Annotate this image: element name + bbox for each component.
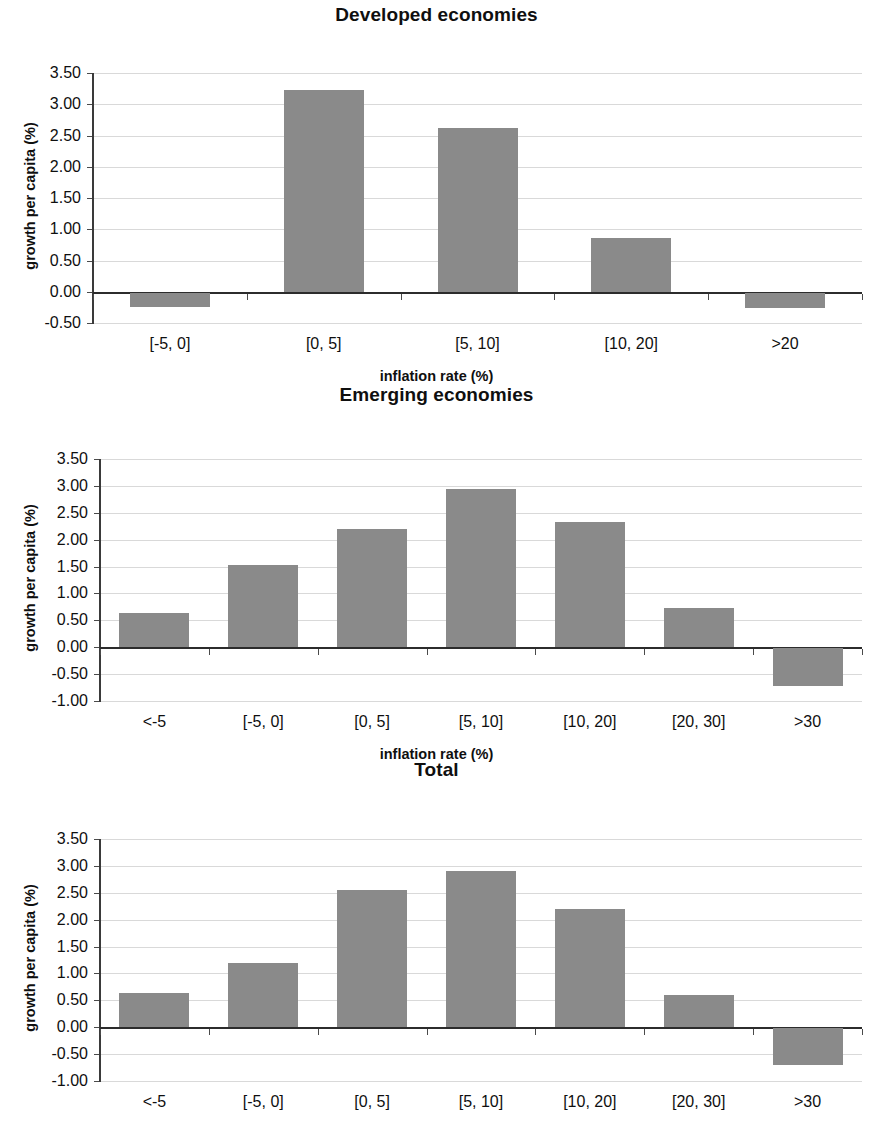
x-tick-mark (644, 1029, 645, 1035)
gridline (100, 839, 862, 840)
x-tick-mark (862, 649, 863, 655)
x-tick-label: [20, 30] (644, 1093, 753, 1111)
bar (228, 565, 298, 647)
x-tick-label: [0, 5] (247, 335, 401, 353)
bar (591, 238, 671, 292)
x-tick-mark (862, 294, 863, 300)
gridline (100, 459, 862, 460)
x-tick-label: >30 (753, 1093, 862, 1111)
x-tick-label: [10, 20] (554, 335, 708, 353)
bar (555, 522, 625, 647)
gridline (100, 674, 862, 675)
chart-panel-developed: Developed economies growth per capita (%… (0, 0, 873, 380)
y-tick-label: -0.50 (0, 314, 81, 332)
x-tick-label: >20 (708, 335, 862, 353)
y-tick-label: 0.00 (0, 638, 88, 656)
x-tick-label: [20, 30] (644, 713, 753, 731)
y-axis-spine (92, 73, 94, 324)
gridline (93, 73, 862, 74)
y-tick-label: 2.50 (0, 884, 88, 902)
bar (119, 613, 189, 647)
x-tick-mark (644, 649, 645, 655)
bar (773, 648, 843, 686)
gridline (100, 701, 862, 702)
gridline (93, 104, 862, 105)
y-tick-label: 1.50 (0, 938, 88, 956)
x-tick-mark (100, 649, 101, 655)
x-tick-mark (535, 1029, 536, 1035)
x-tick-mark (427, 1029, 428, 1035)
gridline (93, 323, 862, 324)
x-tick-mark (753, 649, 754, 655)
y-tick-label: 2.00 (0, 531, 88, 549)
x-tick-mark (401, 294, 402, 300)
x-tick-label: [5, 10] (401, 335, 555, 353)
y-tick-label: 3.50 (0, 64, 81, 82)
y-tick-label: 2.00 (0, 158, 81, 176)
x-tick-label: [0, 5] (318, 713, 427, 731)
y-tick-label: 0.00 (0, 1018, 88, 1036)
y-tick-label: 1.00 (0, 964, 88, 982)
y-tick-label: 3.00 (0, 477, 88, 495)
y-tick-label: 1.00 (0, 220, 81, 238)
x-tick-mark (209, 1029, 210, 1035)
x-tick-mark (708, 294, 709, 300)
panel-title: Emerging economies (0, 380, 873, 406)
bar (664, 608, 734, 647)
bar (438, 128, 518, 292)
gridline (100, 1054, 862, 1055)
gridline (100, 866, 862, 867)
x-tick-label: [-5, 0] (209, 713, 318, 731)
figure-page: Developed economies growth per capita (%… (0, 0, 873, 1123)
zero-axis-line (100, 647, 862, 649)
bar (664, 995, 734, 1027)
y-tick-label: 1.00 (0, 584, 88, 602)
y-tick-label: -1.00 (0, 692, 88, 710)
gridline (100, 1081, 862, 1082)
x-tick-label: [10, 20] (535, 713, 644, 731)
gridline (100, 486, 862, 487)
x-tick-mark (535, 649, 536, 655)
y-tick-label: 0.00 (0, 283, 81, 301)
chart-panel-emerging: Emerging economies growth per capita (%)… (0, 380, 873, 755)
y-tick-label: 3.00 (0, 857, 88, 875)
bar (337, 890, 407, 1027)
x-tick-mark (209, 649, 210, 655)
x-tick-label: <-5 (100, 713, 209, 731)
x-tick-label: [10, 20] (535, 1093, 644, 1111)
x-tick-mark (427, 649, 428, 655)
y-tick-label: 2.00 (0, 911, 88, 929)
y-tick-label: 2.50 (0, 127, 81, 145)
y-tick-label: -0.50 (0, 665, 88, 683)
bar (745, 293, 825, 308)
x-tick-label: [5, 10] (427, 1093, 536, 1111)
y-tick-label: 3.50 (0, 830, 88, 848)
chart-panel-total: Total growth per capita (%)3.503.002.502… (0, 755, 873, 1123)
y-tick-label: 1.50 (0, 558, 88, 576)
y-tick-label: 0.50 (0, 252, 81, 270)
x-tick-mark (93, 294, 94, 300)
bar (555, 909, 625, 1027)
y-tick-label: -1.00 (0, 1072, 88, 1090)
panel-title: Total (0, 755, 873, 781)
panel-title: Developed economies (0, 0, 873, 26)
y-tick-label: 1.50 (0, 189, 81, 207)
y-tick-label: 2.50 (0, 504, 88, 522)
bar (446, 871, 516, 1027)
x-tick-mark (862, 1029, 863, 1035)
y-tick-label: 0.50 (0, 991, 88, 1009)
y-axis-spine (99, 459, 101, 702)
bar (337, 529, 407, 647)
bar (228, 963, 298, 1028)
x-tick-label: >30 (753, 713, 862, 731)
y-tick-label: -0.50 (0, 1045, 88, 1063)
x-tick-mark (100, 1029, 101, 1035)
bar (446, 489, 516, 647)
x-tick-mark (318, 649, 319, 655)
y-axis-spine (99, 839, 101, 1082)
x-tick-mark (554, 294, 555, 300)
x-tick-label: [5, 10] (427, 713, 536, 731)
x-tick-label: [0, 5] (318, 1093, 427, 1111)
x-tick-label: <-5 (100, 1093, 209, 1111)
x-tick-label: [-5, 0] (209, 1093, 318, 1111)
